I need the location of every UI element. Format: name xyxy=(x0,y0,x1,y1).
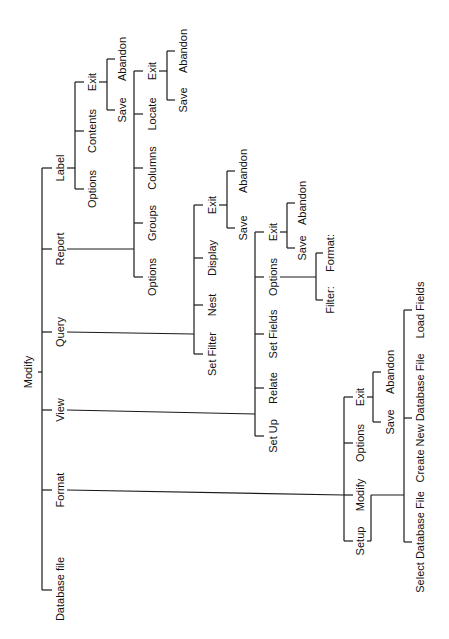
node-label-options: Options xyxy=(86,170,98,208)
node-report-groups: Groups xyxy=(146,204,158,241)
node-label: Label xyxy=(54,155,66,182)
menu-tree-diagram: Modify LabelReportQueryViewFormatDatabas… xyxy=(0,0,449,639)
node-format: Format xyxy=(54,473,66,508)
node-query-display: Display xyxy=(206,239,218,276)
node-query-exit: Exit xyxy=(206,196,218,214)
tree-labels: Modify LabelReportQueryViewFormatDatabas… xyxy=(22,29,426,621)
connector-line xyxy=(67,410,255,414)
node-query-exit-abandon: Abandon xyxy=(237,149,249,193)
node-format-modify: Modify xyxy=(354,478,366,511)
node-report-exit-save: Save xyxy=(177,87,189,112)
node-format-exit-save: Save xyxy=(384,409,396,434)
node-label-exit-abandon: Abandon xyxy=(116,37,128,81)
node-label-contents: Contents xyxy=(86,108,98,153)
node-report-exit-abandon: Abandon xyxy=(177,29,189,73)
node-format-modify-create: Create New Database File xyxy=(414,353,426,482)
node-view-options-format: Format: xyxy=(324,234,336,272)
node-view-relate: Relate xyxy=(267,372,279,404)
node-format-exit: Exit xyxy=(354,388,366,406)
node-query-setfilter: Set Filter xyxy=(206,332,218,376)
node-format-modify-load: Load Fields xyxy=(414,281,426,338)
node-view-setfields: Set Fields xyxy=(267,309,279,358)
node-report-columns: Columns xyxy=(146,146,158,190)
node-format-modify-select: Select Database File xyxy=(414,491,426,593)
node-view-exit-abandon: Abandon xyxy=(296,181,308,225)
node-report-options: Options xyxy=(146,258,158,296)
node-format-options: Options xyxy=(354,424,366,462)
node-view: View xyxy=(54,398,66,422)
node-label-exit: Exit xyxy=(86,73,98,91)
node-view-setup: Set Up xyxy=(267,419,279,453)
node-report-locate: Locate xyxy=(146,97,158,130)
connector-line xyxy=(67,332,194,334)
node-query-nest: Nest xyxy=(206,294,218,317)
node-query-exit-save: Save xyxy=(237,215,249,240)
node-report: Report xyxy=(54,232,66,265)
root-label-modify: Modify xyxy=(22,355,34,388)
node-view-options: Options xyxy=(267,258,279,296)
node-label-exit-save: Save xyxy=(116,97,128,122)
node-format-setup: Setup xyxy=(354,527,366,556)
connector-line xyxy=(67,490,344,495)
node-report-exit: Exit xyxy=(146,62,158,80)
node-view-options-filter: Filter: xyxy=(324,286,336,314)
node-query: Query xyxy=(54,317,66,347)
node-dbfile: Database file xyxy=(54,557,66,621)
node-view-exit: Exit xyxy=(267,223,279,241)
node-view-exit-save: Save xyxy=(296,235,308,260)
node-format-exit-abandon: Abandon xyxy=(384,350,396,394)
